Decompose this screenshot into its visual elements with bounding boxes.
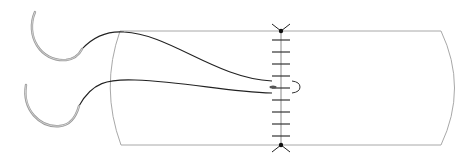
lower-thread	[79, 80, 272, 106]
diagram-svg	[0, 0, 475, 160]
suture-diagram	[0, 0, 475, 160]
upper-needle-icon	[32, 12, 82, 60]
lower-needle-icon	[25, 85, 79, 126]
bottom-anchor-icon	[272, 143, 290, 152]
knot-icon	[270, 86, 277, 89]
top-anchor-icon	[272, 24, 290, 33]
stitch-loop-icon	[292, 81, 300, 93]
